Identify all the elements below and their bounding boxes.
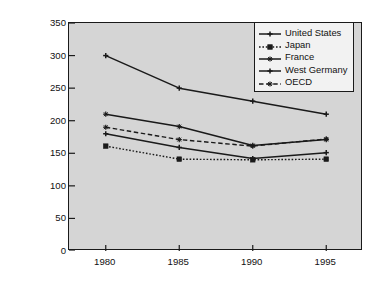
y-tick-label: 150 <box>6 147 66 158</box>
legend-item: Japan <box>258 38 347 50</box>
legend-item: OECD <box>258 76 347 88</box>
legend-label: Japan <box>282 39 311 50</box>
chart-figure: Energy Consumption per Unit of GDP (1991… <box>0 0 377 283</box>
legend-label: West Germany <box>282 64 347 75</box>
y-axis-tick-labels: 050100150200250300350 <box>0 0 66 283</box>
chart-legend: United StatesJapanFranceWest GermanyOECD <box>254 22 354 92</box>
legend-item: United States <box>258 26 347 38</box>
y-tick-label: 350 <box>6 17 66 28</box>
legend-marker-icon <box>258 26 282 38</box>
x-axis-tick-labels: 1980198519901995 <box>0 256 377 276</box>
legend-label: United States <box>282 27 341 38</box>
legend-marker-icon <box>258 51 282 63</box>
legend-label: France <box>282 51 314 62</box>
y-tick-label: 100 <box>6 179 66 190</box>
y-tick-label: 200 <box>6 114 66 125</box>
y-tick-label: 50 <box>6 212 66 223</box>
y-tick-label: 250 <box>6 82 66 93</box>
x-tick-label: 1995 <box>295 256 355 267</box>
legend-item: France <box>258 51 347 63</box>
x-tick-label: 1985 <box>148 256 208 267</box>
legend-marker-icon <box>258 39 282 51</box>
legend-marker-icon <box>258 76 282 88</box>
legend-marker-icon <box>258 63 282 75</box>
legend-label: OECD <box>282 76 312 87</box>
series-france <box>103 112 329 148</box>
legend-item: West Germany <box>258 63 347 75</box>
y-tick-label: 300 <box>6 49 66 60</box>
x-tick-label: 1980 <box>75 256 135 267</box>
y-tick-label: 0 <box>6 245 66 256</box>
x-tick-label: 1990 <box>222 256 282 267</box>
